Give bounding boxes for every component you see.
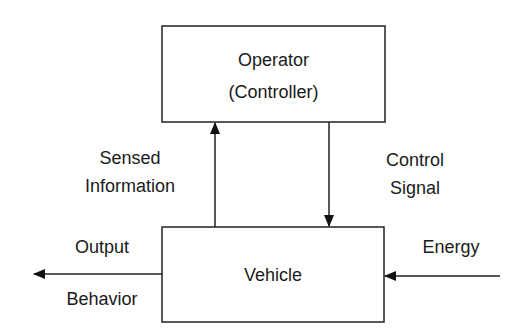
energy-label: Energy <box>412 237 490 258</box>
sensed-line2: Information <box>60 176 200 197</box>
sensed-information-label: Sensed Information <box>60 148 200 197</box>
control-line1: Control <box>370 150 460 171</box>
operator-line2: (Controller) <box>162 82 385 103</box>
control-line2: Signal <box>370 178 460 199</box>
operator-label: Operator (Controller) <box>162 50 385 103</box>
vehicle-label: Vehicle <box>162 265 384 286</box>
sensed-line1: Sensed <box>60 148 200 169</box>
control-signal-label: Control Signal <box>370 150 460 199</box>
output-label: Output <box>60 237 144 258</box>
operator-line1: Operator <box>162 50 385 71</box>
behavior-label: Behavior <box>50 289 154 310</box>
